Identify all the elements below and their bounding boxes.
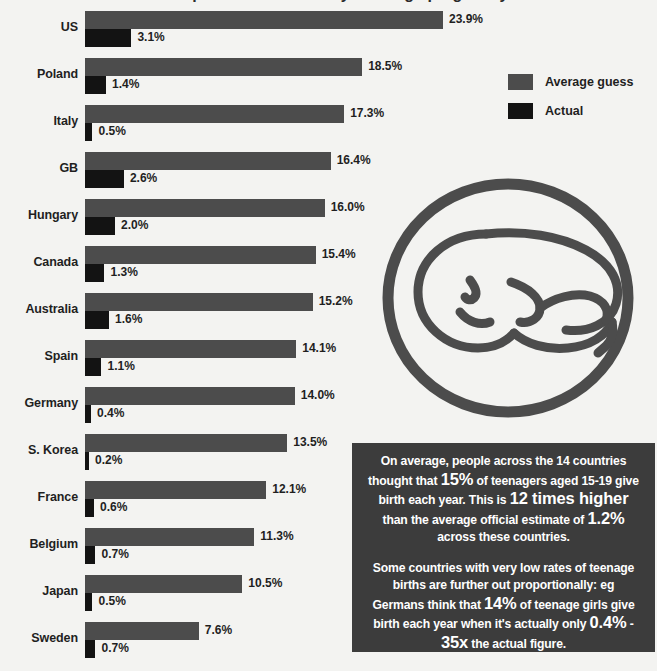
bar-value-label: 1.1% [107, 359, 134, 373]
bar-value-label: 0.4% [97, 406, 124, 420]
bar-fill [85, 123, 92, 141]
legend-item-actual: Actual [508, 103, 633, 119]
callout-text: than the average official estimate of [383, 513, 588, 527]
bar-fill [85, 105, 344, 123]
callout-text: across these countries. [437, 530, 570, 544]
bar-value-label: 0.7% [101, 641, 128, 655]
bar-fill [85, 293, 313, 311]
bar-value-label: 2.0% [121, 218, 148, 232]
bar-value-label: 15.2% [319, 294, 353, 308]
bar-fill [85, 575, 242, 593]
bar-value-label: 15.4% [322, 247, 356, 261]
bar-fill [85, 217, 115, 235]
callout-paragraph-2: Some countries with very low rates of te… [366, 560, 641, 654]
country-label: Sweden [0, 631, 78, 645]
bar-fill [85, 434, 287, 452]
bar-value-label: 1.6% [115, 312, 142, 326]
bar-fill [85, 29, 131, 47]
bar-fill [85, 546, 95, 564]
bar-value-label: 23.9% [449, 12, 483, 26]
bar-value-label: 0.7% [101, 547, 128, 561]
bar-value-label: 2.6% [130, 171, 157, 185]
callout-highlight: 12 times higher [510, 489, 629, 507]
bar-fill [85, 11, 443, 29]
bar-value-label: 1.4% [112, 77, 139, 91]
bar-fill [85, 528, 254, 546]
cut-off-title: Perceptions are not reality: Teenage pre… [0, 0, 657, 7]
chart-row: US23.9%3.1% [0, 8, 500, 55]
bar-value-label: 0.6% [100, 500, 127, 514]
bar-fill [85, 58, 362, 76]
bar-fill [85, 311, 109, 329]
baby-in-circle-icon [374, 172, 642, 424]
country-label: Japan [0, 584, 78, 598]
callout-box: On average, people across the 14 countri… [352, 443, 655, 652]
bar-value-label: 1.3% [110, 265, 137, 279]
legend-item-guess: Average guess [508, 74, 633, 90]
bar-fill [85, 170, 124, 188]
bar-fill [85, 640, 95, 658]
bar-value-label: 18.5% [368, 59, 402, 73]
legend-label-actual: Actual [545, 104, 583, 118]
bar-fill [85, 76, 106, 94]
infographic-canvas: Perceptions are not reality: Teenage pre… [0, 0, 657, 671]
bar-fill [85, 452, 89, 470]
legend-swatch-guess [508, 74, 533, 90]
bar-value-label: 0.5% [98, 124, 125, 138]
bar-fill [85, 593, 92, 611]
legend-label-guess: Average guess [545, 75, 633, 89]
country-label: S. Korea [0, 443, 78, 457]
bar-value-label: 10.5% [248, 576, 282, 590]
bar-value-label: 13.5% [293, 435, 327, 449]
callout-paragraph-1: On average, people across the 14 countri… [366, 453, 641, 547]
callout-text: - [627, 617, 634, 631]
callout-highlight: 14% [484, 594, 517, 612]
bar-value-label: 0.5% [98, 594, 125, 608]
bar-fill [85, 387, 295, 405]
bar-fill [85, 264, 104, 282]
bar-fill [85, 499, 94, 517]
country-label: Poland [0, 67, 78, 81]
country-label: US [0, 20, 78, 34]
country-label: Spain [0, 349, 78, 363]
country-label: Belgium [0, 537, 78, 551]
bar-value-label: 11.3% [260, 529, 293, 543]
bar-value-label: 7.6% [205, 623, 232, 637]
bar-value-label: 16.4% [337, 153, 371, 167]
bar-value-label: 14.0% [301, 388, 335, 402]
callout-highlight: 1.2% [587, 509, 624, 527]
country-label: GB [0, 161, 78, 175]
bar-value-label: 3.1% [137, 30, 164, 44]
chart-row: Italy17.3%0.5% [0, 102, 500, 149]
bar-value-label: 14.1% [302, 341, 336, 355]
chart-row: Poland18.5%1.4% [0, 55, 500, 102]
bar-value-label: 17.3% [350, 106, 384, 120]
legend-swatch-actual [508, 103, 533, 119]
country-label: France [0, 490, 78, 504]
bar-fill [85, 481, 266, 499]
bar-value-label: 16.0% [331, 200, 365, 214]
bar-fill [85, 405, 91, 423]
bar-value-label: 12.1% [272, 482, 306, 496]
callout-highlight: 15% [441, 470, 474, 488]
callout-highlight: 35x [441, 633, 468, 651]
bar-fill [85, 340, 296, 358]
chart-legend: Average guessActual [508, 74, 633, 132]
country-label: Germany [0, 396, 78, 410]
country-label: Australia [0, 302, 78, 316]
country-label: Italy [0, 114, 78, 128]
callout-text: the actual figure. [468, 637, 566, 651]
bar-fill [85, 622, 199, 640]
bar-fill [85, 152, 331, 170]
bar-fill [85, 199, 325, 217]
bar-fill [85, 358, 101, 376]
callout-highlight: 0.4% [590, 613, 627, 631]
country-label: Canada [0, 255, 78, 269]
bar-value-label: 0.2% [95, 453, 122, 467]
bar-fill [85, 246, 316, 264]
country-label: Hungary [0, 208, 78, 222]
